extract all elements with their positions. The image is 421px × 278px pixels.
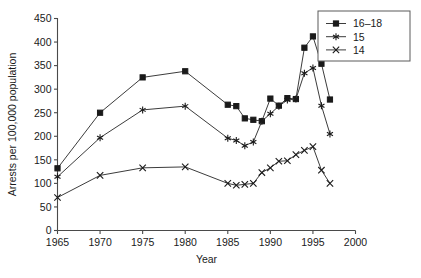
- data-point-star: [250, 138, 256, 145]
- data-point-square: [234, 104, 239, 109]
- data-point-star: [301, 70, 307, 77]
- y-axis-ticks: 050100150200250300350400450: [34, 12, 58, 236]
- legend-label: 14: [353, 44, 365, 56]
- chart-figure: 0501001502002503003504004501965197019751…: [0, 0, 421, 278]
- data-point-star: [327, 130, 333, 137]
- y-tick-label: 150: [34, 154, 52, 166]
- data-point-square: [268, 96, 273, 101]
- y-tick-label: 100: [34, 177, 52, 189]
- data-point-square: [327, 97, 332, 102]
- x-axis-title: Year: [196, 253, 218, 265]
- series-15: [54, 64, 333, 180]
- data-point-x: [327, 180, 333, 186]
- series-14: [54, 143, 333, 200]
- data-point-x: [293, 151, 299, 157]
- legend: 16–181514: [318, 11, 410, 61]
- data-point-x: [259, 169, 265, 175]
- y-tick-label: 450: [34, 12, 52, 24]
- x-tick-label: 2000: [344, 236, 368, 248]
- data-point-square: [333, 21, 338, 26]
- data-point-x: [310, 143, 316, 149]
- data-point-square: [55, 166, 60, 171]
- y-tick-label: 300: [34, 83, 52, 95]
- series-line: [58, 147, 330, 198]
- y-tick-label: 400: [34, 36, 52, 48]
- y-tick-label: 200: [34, 130, 52, 142]
- y-axis-title: Arrests per 100,000 population: [6, 53, 18, 197]
- y-tick-label: 0: [46, 224, 52, 236]
- y-tick-label: 350: [34, 59, 52, 71]
- line-chart: 0501001502002503003504004501965197019751…: [0, 0, 421, 278]
- data-point-square: [242, 116, 247, 121]
- y-tick-label: 50: [40, 201, 52, 213]
- x-tick-label: 1970: [88, 236, 112, 248]
- data-point-square: [140, 75, 145, 80]
- series-line: [58, 36, 330, 168]
- y-tick-label: 250: [34, 107, 52, 119]
- data-point-square: [302, 45, 307, 50]
- x-tick-label: 1975: [131, 236, 155, 248]
- series-16-18: [55, 34, 333, 171]
- x-tick-label: 1965: [46, 236, 70, 248]
- data-point-square: [97, 110, 102, 115]
- data-point-x: [318, 167, 324, 173]
- data-point-star: [318, 102, 324, 109]
- data-point-star: [225, 135, 231, 142]
- data-point-star: [310, 64, 316, 71]
- axes-group: [58, 18, 356, 231]
- data-point-x: [301, 147, 307, 153]
- x-tick-label: 1980: [174, 236, 198, 248]
- x-axis-ticks: 19651970197519801985199019952000: [46, 231, 368, 249]
- series-line: [58, 68, 330, 177]
- data-point-square: [319, 61, 324, 66]
- data-point-square: [310, 34, 315, 39]
- x-tick-label: 1990: [259, 236, 283, 248]
- legend-label: 15: [353, 31, 365, 43]
- x-tick-label: 1985: [216, 236, 240, 248]
- data-point-x: [267, 165, 273, 171]
- data-point-square: [251, 117, 256, 122]
- legend-label: 16–18: [353, 17, 382, 29]
- data-point-square: [225, 102, 230, 107]
- x-tick-label: 1995: [301, 236, 325, 248]
- data-point-star: [242, 142, 248, 149]
- data-point-square: [183, 69, 188, 74]
- data-point-star: [233, 137, 239, 144]
